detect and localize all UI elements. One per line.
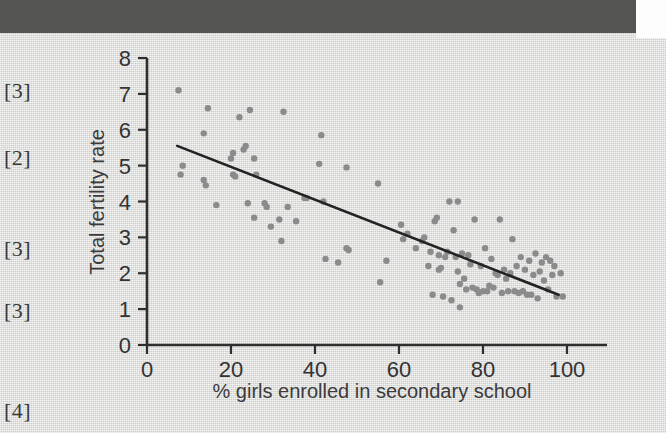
data-point bbox=[448, 297, 454, 303]
data-point bbox=[400, 236, 406, 242]
data-point bbox=[522, 266, 528, 272]
x-tick-label: 80 bbox=[471, 357, 495, 382]
data-point bbox=[509, 236, 515, 242]
data-point bbox=[558, 270, 564, 276]
data-point bbox=[560, 293, 566, 299]
data-point bbox=[316, 161, 322, 167]
data-point bbox=[450, 227, 456, 233]
x-tick-label: 100 bbox=[549, 357, 586, 382]
data-point bbox=[455, 198, 461, 204]
data-point bbox=[463, 286, 469, 292]
data-point bbox=[490, 284, 496, 290]
data-point bbox=[201, 130, 207, 136]
data-point bbox=[247, 107, 253, 113]
chart-axes: 012345678020406080100 bbox=[119, 46, 607, 382]
data-point bbox=[177, 171, 183, 177]
data-point bbox=[457, 304, 463, 310]
data-point bbox=[251, 214, 257, 220]
data-point bbox=[532, 250, 538, 256]
data-point bbox=[293, 218, 299, 224]
data-point bbox=[343, 164, 349, 170]
data-point bbox=[413, 245, 419, 251]
data-point bbox=[232, 173, 238, 179]
data-point bbox=[236, 114, 242, 120]
y-tick-label: 4 bbox=[119, 190, 131, 215]
data-point bbox=[471, 216, 477, 222]
data-point bbox=[457, 281, 463, 287]
y-tick-label: 2 bbox=[119, 261, 131, 286]
data-point bbox=[278, 238, 284, 244]
data-point bbox=[541, 277, 547, 283]
data-point bbox=[421, 234, 427, 240]
data-point bbox=[539, 259, 545, 265]
data-point bbox=[345, 247, 351, 253]
y-tick-label: 0 bbox=[119, 333, 131, 358]
data-point bbox=[446, 198, 452, 204]
data-point bbox=[534, 295, 540, 301]
data-point bbox=[398, 222, 404, 228]
y-tick-label: 1 bbox=[119, 297, 131, 322]
data-point bbox=[251, 155, 257, 161]
x-tick-label: 0 bbox=[141, 357, 153, 382]
data-point bbox=[375, 180, 381, 186]
data-point bbox=[180, 162, 186, 168]
data-point bbox=[245, 200, 251, 206]
y-tick-label: 3 bbox=[119, 225, 131, 250]
y-axis-title: Total fertility rate bbox=[86, 129, 108, 275]
y-tick-label: 5 bbox=[119, 154, 131, 179]
data-point bbox=[488, 256, 494, 262]
data-point bbox=[549, 272, 555, 278]
data-point bbox=[318, 132, 324, 138]
data-point bbox=[438, 265, 444, 271]
data-point bbox=[461, 275, 467, 281]
data-point bbox=[513, 263, 519, 269]
x-tick-label: 40 bbox=[303, 357, 327, 382]
y-tick-label: 6 bbox=[119, 118, 131, 143]
x-tick-label: 20 bbox=[219, 357, 243, 382]
data-point bbox=[243, 143, 249, 149]
data-point bbox=[213, 202, 219, 208]
data-point bbox=[383, 257, 389, 263]
data-point bbox=[322, 256, 328, 262]
data-point bbox=[205, 105, 211, 111]
data-point bbox=[276, 216, 282, 222]
y-tick-label: 8 bbox=[119, 46, 131, 71]
data-point bbox=[427, 249, 433, 255]
data-point bbox=[201, 177, 207, 183]
data-point bbox=[377, 279, 383, 285]
x-tick-label: 60 bbox=[387, 357, 411, 382]
scatter-chart: 012345678020406080100 % girls enrolled i… bbox=[0, 0, 666, 433]
data-point bbox=[551, 263, 557, 269]
data-point bbox=[518, 254, 524, 260]
data-point bbox=[434, 214, 440, 220]
data-point bbox=[497, 216, 503, 222]
data-point bbox=[526, 257, 532, 263]
data-point bbox=[230, 150, 236, 156]
data-point bbox=[528, 292, 534, 298]
data-point bbox=[175, 87, 181, 93]
data-point bbox=[440, 293, 446, 299]
data-point bbox=[537, 268, 543, 274]
data-point bbox=[425, 263, 431, 269]
data-point bbox=[455, 268, 461, 274]
data-point bbox=[499, 290, 505, 296]
y-tick-label: 7 bbox=[119, 82, 131, 107]
data-point bbox=[482, 245, 488, 251]
data-point bbox=[335, 259, 341, 265]
data-point bbox=[285, 204, 291, 210]
x-axis-title: % girls enrolled in secondary school bbox=[212, 380, 531, 402]
data-point bbox=[268, 223, 274, 229]
data-point bbox=[530, 272, 536, 278]
data-point bbox=[547, 257, 553, 263]
data-point bbox=[505, 288, 511, 294]
data-point bbox=[436, 252, 442, 258]
data-point bbox=[264, 204, 270, 210]
data-point bbox=[429, 292, 435, 298]
data-point bbox=[280, 109, 286, 115]
